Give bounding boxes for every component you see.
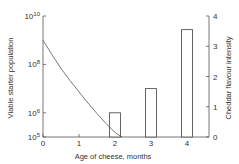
x-axis-title: Age of cheese, months <box>75 152 152 161</box>
right-y-axis: 01234 <box>206 12 218 142</box>
left-tick-label: 1010 <box>24 11 40 21</box>
chart: 1010108106105 01234 01234 Age of cheese,… <box>0 0 239 164</box>
right-tick-label: 1 <box>213 103 218 112</box>
left-tick-label: 106 <box>28 108 41 118</box>
flavour-bars <box>110 30 193 137</box>
x-tick-label: 0 <box>41 139 46 148</box>
flavour-bar-month-2 <box>110 113 121 137</box>
x-tick-label: 3 <box>149 139 154 148</box>
flavour-bar-month-3 <box>146 89 157 137</box>
right-tick-label: 0 <box>213 133 218 142</box>
right-tick-label: 4 <box>213 12 218 21</box>
left-tick-label: 108 <box>28 59 41 69</box>
left-y-axis-title: Viable starter population <box>6 38 15 119</box>
flavour-bar-month-4 <box>182 30 193 137</box>
right-tick-label: 2 <box>213 73 218 82</box>
x-tick-label: 1 <box>77 139 82 148</box>
right-y-axis-title: Cheddar flavour intensity <box>224 36 233 119</box>
x-tick-label: 2 <box>113 139 118 148</box>
right-tick-label: 3 <box>213 42 218 51</box>
left-y-axis: 1010108106105 <box>24 11 46 142</box>
x-tick-label: 4 <box>185 139 190 148</box>
left-tick-label: 105 <box>28 132 41 142</box>
